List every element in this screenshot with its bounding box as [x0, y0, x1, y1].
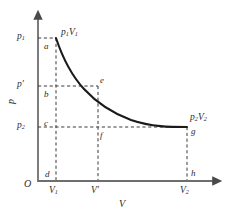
- y-tick-label-p2: p2: [17, 121, 25, 131]
- x-tick-label-vprime: V′: [91, 186, 99, 196]
- point-label-a: a: [44, 42, 49, 51]
- y-tick-label-p1: p1: [17, 32, 25, 42]
- x-tick-label-v2: V2: [180, 186, 189, 196]
- point-label-g: g: [191, 127, 196, 136]
- point-label-f: f: [100, 131, 103, 140]
- y-axis-label: p: [6, 99, 16, 104]
- pv-diagram-figure: p1 p′ p2 V1 V′ V2 O V p a b c d e f g h …: [0, 0, 226, 217]
- annotation-state-2: p2V2: [190, 113, 207, 123]
- annotation-state-1: p1V1: [61, 28, 78, 38]
- x-tick-label-v1: V1: [49, 186, 58, 196]
- y-tick-label-pprime: p′: [17, 80, 24, 90]
- point-label-c: c: [44, 119, 48, 128]
- origin-label: O: [24, 179, 31, 189]
- point-label-b: b: [44, 90, 49, 99]
- point-label-d: d: [45, 170, 50, 179]
- x-axis-label: V: [119, 199, 125, 209]
- plot-canvas: [0, 0, 226, 217]
- point-label-h: h: [191, 169, 196, 178]
- isotherm-curve: [56, 38, 187, 127]
- point-label-e: e: [100, 76, 104, 85]
